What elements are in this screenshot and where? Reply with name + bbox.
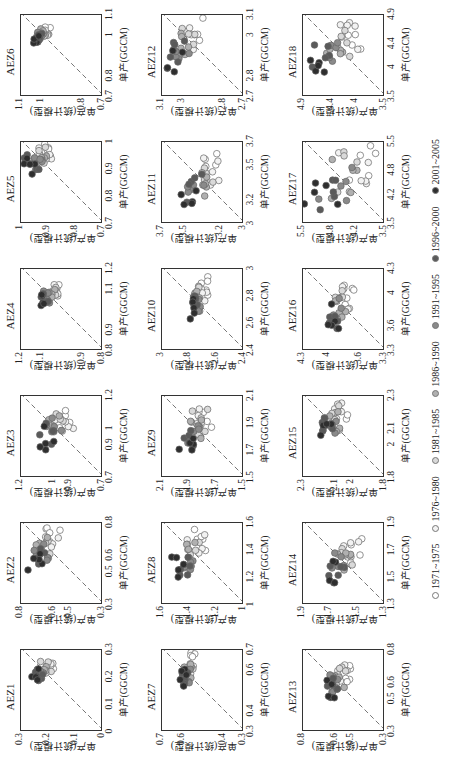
y-axis-label: 单产(统计模型) [154, 232, 254, 246]
legend-marker-icon [432, 592, 439, 599]
panel-aez1: AEZ1000.10.10.20.20.30.3单产(统计模型)单产(GGCM) [4, 633, 132, 761]
panel-aez7: AEZ70.30.30.40.40.60.60.70.7单产(统计模型)单产(G… [145, 633, 273, 761]
x-tick-label: 0.8 [104, 190, 114, 202]
x-tick-label: 1 [104, 32, 114, 37]
x-tick-label: 0.9 [104, 324, 114, 336]
x-axis-label: 单产(GGCM) [398, 649, 412, 731]
plot-area [161, 395, 243, 477]
x-tick-label: 1.9 [245, 416, 255, 428]
x-tick-label: 1.2 [104, 389, 114, 401]
panel-aez3: AEZ30.70.70.90.9111.21.2单产(统计模型)单产(GGCM) [4, 379, 132, 507]
y-axis-label: 单产(统计模型) [13, 486, 113, 500]
plot-area [20, 141, 102, 223]
x-tick-label: 4.9 [386, 8, 396, 20]
legend-marker-icon [432, 525, 439, 532]
plot-area [302, 649, 384, 731]
y-axis-label: 单产(统计模型) [295, 359, 395, 373]
x-tick-label: 1.7 [386, 543, 396, 555]
legend-marker-icon [432, 187, 439, 194]
x-tick-label: 2.1 [245, 389, 255, 401]
x-tick-label: 0.4 [245, 705, 255, 717]
panel-aez9: AEZ91.51.51.71.71.91.92.12.1单产(统计模型)单产(G… [145, 379, 273, 507]
legend-label: 2001~2005 [430, 139, 441, 184]
x-tick-label: 3.2 [245, 194, 255, 206]
x-tick-label: 3.7 [245, 135, 255, 147]
plot-area [302, 395, 384, 477]
x-tick-label: 0.8 [104, 516, 114, 528]
x-tick-label: 0.1 [104, 698, 114, 710]
legend-label: 1971~1975 [430, 544, 441, 589]
x-tick-label: 1 [104, 139, 114, 144]
legend-label: 1986~1990 [430, 341, 441, 386]
panel-aez10: AEZ102.42.42.62.62.82.833单产(统计模型)单产(GGCM… [145, 252, 273, 380]
y-axis-label: 单产(统计模型) [295, 105, 395, 119]
y-axis-label: 单产(统计模型) [295, 740, 395, 754]
legend-marker-icon [432, 390, 439, 397]
figure: AEZ1000.10.10.20.20.30.3单产(统计模型)单产(GGCM)… [0, 0, 451, 769]
legend-label: 1981~1985 [430, 409, 441, 454]
legend-marker-icon [432, 457, 439, 464]
panel-aez4: AEZ40.80.80.90.91.11.11.21.2单产(统计模型)单产(G… [4, 252, 132, 380]
x-tick-label: 0.8 [104, 70, 114, 82]
x-tick-label: 0.8 [104, 344, 114, 356]
x-axis-label: 单产(GGCM) [257, 649, 271, 731]
y-axis-label: 单产(统计模型) [13, 232, 113, 246]
x-tick-label: 3.5 [386, 217, 396, 229]
y-axis-label: 单产(统计模型) [295, 232, 395, 246]
x-axis-label: 单产(GGCM) [116, 14, 130, 96]
x-tick-label: 2.3 [386, 389, 396, 401]
y-axis-label: 单产(统计模型) [154, 105, 254, 119]
x-axis-label: 单产(GGCM) [116, 522, 130, 604]
x-tick-label: 2 [386, 442, 396, 447]
x-tick-label: 3.5 [386, 90, 396, 102]
y-axis-label: 单产(统计模型) [13, 359, 113, 373]
x-tick-label: 1.3 [386, 598, 396, 610]
x-tick-label: 0.9 [104, 162, 114, 174]
panel-aez5: AEZ50.70.70.80.80.90.911单产(统计模型)单产(GGCM) [4, 125, 132, 253]
x-tick-label: 1.6 [245, 516, 255, 528]
y-axis-label: 单产(统计模型) [13, 105, 113, 119]
legend-item: 1996~2000 [430, 206, 441, 261]
x-tick-label: 0.3 [104, 598, 114, 610]
x-tick-label: 0.6 [245, 664, 255, 676]
panel-aez14: AEZ141.31.31.51.51.71.71.91.9单产(统计模型)单产(… [286, 506, 414, 634]
y-axis-label: 单产(统计模型) [154, 486, 254, 500]
legend-marker-icon [432, 255, 439, 262]
x-tick-label: 2.8 [245, 70, 255, 82]
plot-area [302, 268, 384, 350]
x-tick-label: 0.7 [245, 643, 255, 655]
plot-area [302, 141, 384, 223]
y-axis-label: 单产(统计模型) [154, 613, 254, 627]
legend-item: 1976~1980 [430, 476, 441, 531]
x-tick-label: 4.3 [386, 262, 396, 274]
x-tick-label: 0.3 [386, 725, 396, 737]
x-tick-label: 0.7 [104, 90, 114, 102]
x-tick-label: 0.9 [104, 438, 114, 450]
panel-aez2: AEZ20.30.30.50.50.60.60.80.8单产(统计模型)单产(G… [4, 506, 132, 634]
x-tick-label: 2.8 [245, 289, 255, 301]
x-tick-label: 0 [104, 729, 114, 734]
x-axis-label: 单产(GGCM) [116, 649, 130, 731]
panel-aez17: AEZ173.53.54.24.24.84.85.55.5单产(统计模型)单产(… [286, 125, 414, 253]
x-tick-label: 0.8 [386, 643, 396, 655]
x-tick-label: 4 [386, 290, 396, 295]
x-tick-label: 1.9 [386, 516, 396, 528]
x-tick-label: 0.7 [104, 471, 114, 483]
plot-area [20, 268, 102, 350]
x-tick-label: 1.8 [386, 471, 396, 483]
legend-item: 1991~1995 [430, 274, 441, 329]
plot-area [161, 14, 243, 96]
x-tick-label: 4 [386, 64, 396, 69]
legend-item: 1971~1975 [430, 544, 441, 599]
x-tick-label: 2.1 [386, 422, 396, 434]
x-tick-label: 1.7 [245, 444, 255, 456]
x-axis-label: 单产(GGCM) [257, 268, 271, 350]
legend-item: 1981~1985 [430, 409, 441, 464]
x-tick-label: 1.5 [386, 571, 396, 583]
x-axis-label: 单产(GGCM) [257, 141, 271, 223]
x-tick-label: 1 [104, 425, 114, 430]
x-tick-label: 3 [245, 32, 255, 37]
y-axis-label: 单产(统计模型) [154, 359, 254, 373]
x-tick-label: 3.5 [245, 159, 255, 171]
x-tick-label: 0.2 [104, 670, 114, 682]
